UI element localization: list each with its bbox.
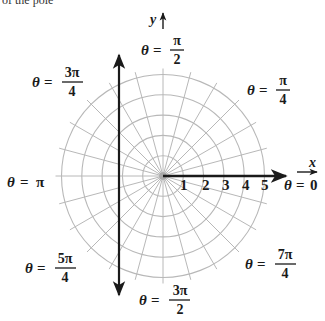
label-theta-pi-over-2: θ = π 2 — [141, 33, 184, 67]
svg-text:π: π — [173, 33, 181, 48]
grid-spoke-165deg — [59, 148, 163, 176]
svg-text:2: 2 — [174, 52, 181, 67]
svg-text:=: = — [151, 292, 160, 308]
tick-4: 4 — [242, 177, 250, 193]
svg-text:=: = — [296, 177, 305, 193]
svg-text:7π: 7π — [278, 247, 293, 262]
svg-text:4: 4 — [282, 266, 289, 281]
grid-spoke-195deg — [59, 176, 163, 204]
grid-spoke-60deg — [163, 83, 217, 176]
grid-spoke-105deg — [135, 72, 163, 176]
grid-spoke-345deg — [163, 176, 267, 204]
grid-spoke-255deg — [135, 176, 163, 280]
svg-text:θ: θ — [139, 292, 147, 308]
x-axis-label: x — [308, 155, 316, 170]
polar-coordinate-diagram: of the pole y x 1 2 3 4 5 θ = 0 θ = π θ … — [0, 0, 325, 321]
grid-spoke-210deg — [70, 176, 163, 230]
svg-text:4: 4 — [62, 270, 69, 285]
y-axis-label: y — [148, 12, 157, 27]
tick-5: 5 — [261, 177, 269, 193]
svg-text:4: 4 — [280, 92, 287, 107]
svg-text:θ: θ — [141, 42, 149, 58]
svg-text:3π: 3π — [65, 65, 80, 80]
svg-text:θ: θ — [247, 82, 255, 98]
grid-spoke-120deg — [109, 83, 163, 176]
tick-2: 2 — [202, 177, 210, 193]
svg-text:3π: 3π — [173, 283, 188, 298]
grid-spoke-225deg — [87, 176, 163, 252]
svg-text:θ: θ — [32, 74, 40, 90]
svg-text:θ: θ — [25, 260, 33, 276]
svg-text:π: π — [279, 73, 287, 88]
grid-spoke-30deg — [163, 122, 256, 176]
svg-text:θ: θ — [245, 256, 253, 272]
grid-spoke-240deg — [109, 176, 163, 269]
label-theta-pi-over-4: θ = π 4 — [247, 73, 290, 107]
svg-text:=: = — [257, 256, 266, 272]
grid-spoke-150deg — [70, 122, 163, 176]
svg-text:π: π — [36, 174, 45, 190]
label-theta-7pi-over-4: θ = 7π 4 — [245, 247, 296, 281]
tick-1: 1 — [180, 177, 188, 193]
label-theta-3pi-over-2: θ = 3π 2 — [139, 283, 190, 317]
grid-spoke-15deg — [163, 148, 267, 176]
svg-text:=: = — [44, 74, 53, 90]
label-theta-3pi-over-4: θ = 3π 4 — [32, 65, 83, 99]
svg-text:=: = — [153, 42, 162, 58]
label-theta-0: θ = 0 — [284, 177, 318, 193]
svg-text:θ: θ — [284, 177, 292, 193]
grid-spoke-45deg — [163, 100, 239, 176]
label-theta-pi: θ = π — [7, 174, 45, 190]
polar-grid-figure: of the pole y x 1 2 3 4 5 θ = 0 θ = π θ … — [0, 0, 325, 321]
grid-spoke-75deg — [163, 72, 191, 176]
svg-text:=: = — [37, 260, 46, 276]
caption-fragment: of the pole — [2, 0, 53, 7]
tick-3: 3 — [222, 177, 230, 193]
svg-text:θ: θ — [7, 174, 15, 190]
svg-text:5π: 5π — [58, 251, 73, 266]
svg-text:=: = — [259, 82, 268, 98]
label-theta-5pi-over-4: θ = 5π 4 — [25, 251, 76, 285]
svg-text:0: 0 — [310, 177, 318, 193]
svg-text:2: 2 — [177, 302, 184, 317]
grid-spoke-135deg — [87, 100, 163, 176]
radial-tick-labels: 1 2 3 4 5 — [180, 177, 269, 193]
svg-text:4: 4 — [69, 84, 76, 99]
svg-text:=: = — [20, 174, 29, 190]
